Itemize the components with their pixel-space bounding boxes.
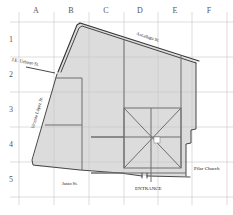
row-label-3: 3 (9, 106, 13, 114)
column-label-e: E (173, 7, 178, 15)
column-label-f: F (207, 7, 211, 15)
row-label-2: 2 (9, 71, 13, 79)
plaza-monument (154, 137, 160, 143)
column-label-b: B (68, 7, 73, 15)
row-label-5: 5 (9, 176, 13, 184)
street-label-justo: Justo St. (62, 182, 78, 187)
row-label-1: 1 (9, 36, 13, 44)
pilar-church-label: Pilar Church (194, 166, 219, 171)
column-label-d: D (137, 7, 143, 15)
row-label-4: 4 (9, 141, 13, 149)
column-label-a: A (33, 7, 39, 15)
column-label-c: C (103, 7, 108, 15)
urbano-street-line (26, 67, 55, 73)
site-block (32, 22, 198, 176)
entrance-label: ENTRANCE (135, 186, 162, 191)
